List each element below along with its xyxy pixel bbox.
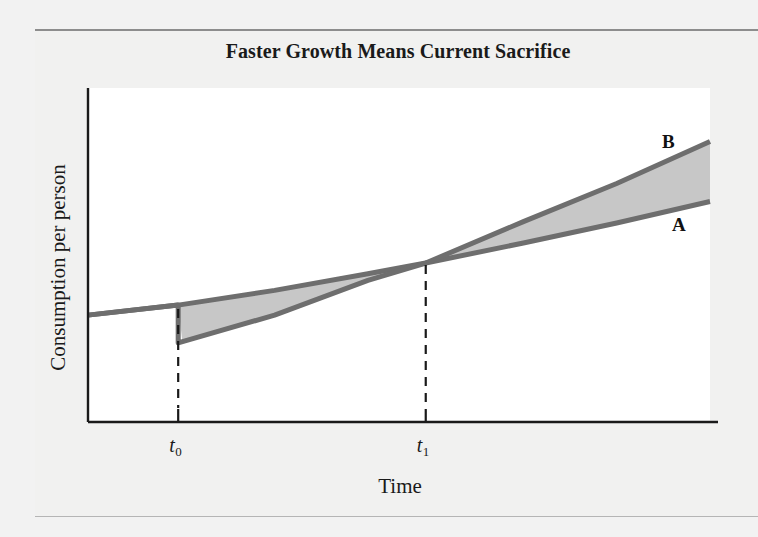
chart-svg bbox=[0, 0, 758, 537]
curve-b-label: B bbox=[662, 131, 675, 153]
x-tick-label-t1: t1 bbox=[417, 434, 430, 460]
curve-a-label: A bbox=[672, 214, 686, 236]
x-axis-label: Time bbox=[300, 474, 500, 499]
figure-container: Faster Growth Means Current Sacrifice Co… bbox=[0, 0, 758, 537]
tick-t0-variable: t bbox=[169, 434, 175, 456]
tick-t1-variable: t bbox=[417, 434, 423, 456]
tick-t1-subscript: 1 bbox=[423, 444, 430, 459]
y-axis-label: Consumption per person bbox=[46, 118, 71, 418]
x-tick-label-t0: t0 bbox=[169, 434, 182, 460]
tick-t0-subscript: 0 bbox=[175, 444, 182, 459]
